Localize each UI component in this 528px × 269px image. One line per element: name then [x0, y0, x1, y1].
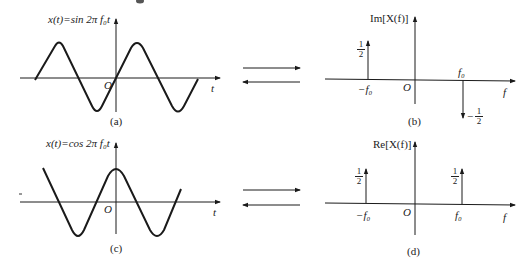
- panel-b-imag-spectrum: [325, 17, 515, 118]
- f-axis-label-b: f: [503, 87, 506, 98]
- neg-f0-label-b: −f₀: [358, 84, 372, 95]
- f-axis-label-d: f: [503, 212, 506, 223]
- f-axis-d: [325, 203, 515, 205]
- impulse-sign-pos-b: −: [467, 111, 473, 122]
- caption-d: (d): [407, 245, 420, 257]
- panel-c-cosine-time: [19, 143, 220, 236]
- pos-f0-label-d: f₀: [455, 210, 462, 221]
- caption-c: (c): [110, 242, 122, 254]
- neg-f0-label-d: −f₀: [356, 210, 370, 221]
- panel-a-sine-time: [20, 19, 220, 112]
- origin-label-b: O: [403, 82, 411, 93]
- impulse-value-pos-d: 1 2: [451, 167, 459, 186]
- impulse-value-neg-d: 1 2: [355, 167, 363, 186]
- origin-label-d: O: [403, 207, 411, 218]
- origin-label-c: O: [104, 204, 112, 215]
- fourier-pair-diagram: [0, 0, 528, 269]
- function-label-sine: x(t)=sin 2π f₀t: [48, 14, 110, 25]
- re-axis-label: Re[X(f)]: [373, 139, 411, 150]
- panel-d-real-spectrum: [325, 142, 515, 235]
- origin-label-a: O: [104, 80, 112, 91]
- transform-arrows-top: [243, 68, 300, 82]
- t-axis-label-c: t: [213, 207, 216, 218]
- im-axis-label: Im[X(f)]: [370, 13, 408, 24]
- function-label-cosine: x(t)=cos 2π f₀t: [46, 138, 110, 149]
- caption-a: (a): [110, 115, 122, 127]
- transform-arrows-bottom: [243, 190, 300, 205]
- impulse-value-pos-b: 1 2: [475, 107, 483, 126]
- scan-artifact: [136, 0, 144, 4]
- f-axis-b: [325, 79, 515, 81]
- t-axis-label-a: t: [211, 83, 214, 94]
- impulse-value-neg-b: 1 2: [357, 40, 365, 59]
- caption-b: (b): [408, 115, 421, 127]
- pos-f0-label-b: f₀: [458, 67, 465, 78]
